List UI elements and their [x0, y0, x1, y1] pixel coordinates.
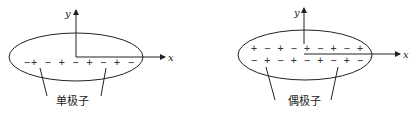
x-axis-label: x	[168, 52, 174, 63]
figure: y x −+ − + − + − + − 单极子 y x + − + − + −…	[0, 0, 415, 116]
leader-line-right	[331, 67, 338, 100]
charges-row-bottom: − + − + − + − + −	[251, 55, 363, 66]
monopole-label: 单极子	[56, 94, 89, 108]
y-axis-label: y	[293, 7, 300, 18]
dipole-label: 偶极子	[288, 94, 321, 108]
leader-line-left	[266, 67, 275, 100]
y-axis-label: y	[64, 8, 71, 19]
monopole-diagram: y x −+ − + − + − + − 单极子	[9, 8, 174, 108]
dipole-diagram: y x + − + − + − + − + − + − + − + − + − …	[238, 7, 409, 108]
charges-row-top: + − + − + − + − +	[251, 43, 363, 54]
leader-line-right	[101, 68, 106, 96]
charges-row: −+ − + − + − + −	[24, 57, 134, 68]
x-axis-label: x	[403, 49, 409, 60]
leader-line-left	[40, 68, 47, 96]
